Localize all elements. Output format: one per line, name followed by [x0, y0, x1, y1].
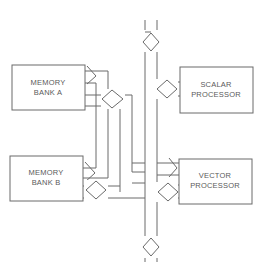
- architecture-diagram: MEMORY BANK A SCALAR PROCESSOR MEMORY BA…: [0, 0, 263, 273]
- scalar-processor-block: SCALAR PROCESSOR: [180, 67, 253, 113]
- vector-processor-label-line2: PROCESSOR: [190, 181, 240, 190]
- memory-bank-b-label-line1: MEMORY: [29, 168, 64, 177]
- memory-a-wiring: [85, 66, 132, 192]
- scalar-wiring: [156, 79, 180, 99]
- memory-bus-links: [132, 163, 145, 183]
- memory-bank-a-block: MEMORY BANK A: [12, 65, 85, 110]
- vector-processor-block: VECTOR PROCESSOR: [179, 159, 252, 204]
- memory-b-wiring: [83, 162, 145, 200]
- memory-bank-b-label-line2: BANK B: [32, 178, 61, 187]
- scalar-processor-label-line2: PROCESSOR: [191, 90, 241, 99]
- memory-bank-b-block: MEMORY BANK B: [10, 156, 83, 201]
- system-bus: [145, 20, 157, 262]
- vector-wiring: [156, 158, 179, 202]
- memory-bank-a-label-line1: MEMORY: [31, 78, 66, 87]
- vector-processor-label-line1: VECTOR: [199, 171, 232, 180]
- memory-bank-a-label-line2: BANK A: [34, 88, 62, 97]
- scalar-processor-label-line1: SCALAR: [200, 80, 232, 89]
- bus-bottom-bidirectional-connector: [141, 236, 161, 258]
- bus-top-bidirectional-connector: [141, 30, 161, 52]
